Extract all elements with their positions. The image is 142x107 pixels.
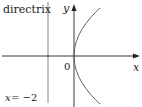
origin-label: 0 <box>64 61 70 72</box>
y-axis-arrow-icon <box>72 4 77 11</box>
directrix-label: directrix <box>3 3 52 16</box>
x-axis-arrow-icon <box>133 54 140 59</box>
parabola-diagram: directrix y x 0 x = −2 <box>0 0 142 107</box>
x-axis-label: x <box>133 61 140 74</box>
directrix-equation-value: = −2 <box>11 92 37 103</box>
y-axis-label: y <box>62 2 70 15</box>
